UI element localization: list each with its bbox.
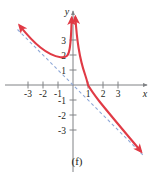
curve-right-branch [75,18,140,152]
y-tick-label-1: 1 [61,66,66,76]
figure-container: -3 -2 -1 1 2 3 3 2 1 -1 -2 -3 x y (f) [0,0,154,179]
y-tick-label-3: 3 [61,36,66,46]
x-tick-label--3: -3 [24,89,32,99]
slant-asymptote-line [18,30,144,156]
x-axis-label: x [142,88,148,99]
x-tick-label-2: 2 [101,89,106,99]
graph-plot: -3 -2 -1 1 2 3 3 2 1 -1 -2 -3 x y [0,0,154,179]
y-tick-label--2: -2 [58,111,66,121]
y-axis-label: y [64,6,70,17]
y-tick-label-2: 2 [61,51,66,61]
x-tick-label--2: -2 [39,89,47,99]
x-axis-tick-labels: -3 -2 -1 1 2 3 [24,89,121,99]
figure-caption: (f) [0,155,154,167]
x-tick-label-3: 3 [116,89,121,99]
y-tick-label--3: -3 [58,126,66,136]
y-tick-label--1: -1 [58,96,66,106]
